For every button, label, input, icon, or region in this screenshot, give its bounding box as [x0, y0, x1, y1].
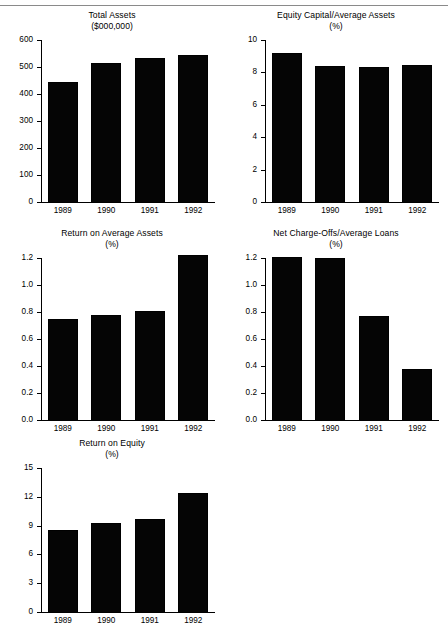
y-axis-tick [37, 526, 41, 527]
y-axis-tick [261, 420, 265, 421]
y-axis-label: 0 [224, 198, 257, 206]
y-axis-label: 0.8 [0, 308, 33, 316]
y-axis-label: 300 [0, 117, 33, 125]
y-axis-tick [261, 258, 265, 259]
plot-area: 036912151989199019911992 [0, 438, 224, 630]
bar-1991 [135, 519, 165, 613]
x-axis-label: 1989 [41, 424, 85, 433]
y-axis-label: 4 [224, 133, 257, 141]
x-axis-label: 1992 [172, 616, 216, 625]
y-axis-label: 0.6 [0, 335, 33, 343]
y-axis-tick [261, 137, 265, 138]
y-axis-label: 0 [0, 198, 33, 206]
y-axis-tick [261, 72, 265, 73]
y-axis-tick [37, 468, 41, 469]
y-axis-label: 0.4 [224, 362, 257, 370]
y-axis-line [265, 258, 266, 421]
y-axis-tick [37, 420, 41, 421]
bar-1992 [178, 55, 208, 203]
y-axis-label: 0.2 [0, 389, 33, 397]
y-axis-label: 1.2 [0, 254, 33, 262]
y-axis-label: 1.0 [224, 281, 257, 289]
x-axis-label: 1991 [352, 206, 396, 215]
bar-1989 [48, 530, 78, 613]
y-axis-tick [261, 285, 265, 286]
y-axis-tick [37, 285, 41, 286]
y-axis-label: 0.6 [224, 335, 257, 343]
y-axis-tick [37, 366, 41, 367]
y-axis-label: 6 [0, 550, 33, 558]
y-axis-tick [37, 175, 41, 176]
y-axis-tick [37, 554, 41, 555]
x-axis-label: 1992 [172, 424, 216, 433]
x-axis-label: 1991 [128, 206, 172, 215]
x-axis-label: 1990 [85, 424, 129, 433]
y-axis-label: 500 [0, 63, 33, 71]
x-axis-label: 1992 [172, 206, 216, 215]
y-axis-label: 6 [224, 101, 257, 109]
y-axis-tick [261, 202, 265, 203]
bar-1989 [48, 319, 78, 421]
y-axis-tick [37, 121, 41, 122]
plot-area: 0.00.20.40.60.81.01.21989199019911992 [224, 228, 448, 438]
y-axis-line [41, 40, 42, 203]
y-axis-tick [37, 258, 41, 259]
bar-1991 [359, 67, 389, 203]
y-axis-line [41, 468, 42, 613]
x-axis-label: 1990 [309, 206, 353, 215]
x-axis-label: 1990 [309, 424, 353, 433]
y-axis-label: 3 [0, 579, 33, 587]
y-axis-label: 200 [0, 144, 33, 152]
x-axis-label: 1989 [41, 616, 85, 625]
y-axis-tick [37, 339, 41, 340]
y-axis-tick [37, 393, 41, 394]
chart-panel-return-on-equity: Return on Equity(%)036912151989199019911… [0, 438, 224, 630]
x-axis-label: 1991 [352, 424, 396, 433]
x-axis-label: 1989 [265, 206, 309, 215]
y-axis-tick [37, 202, 41, 203]
y-axis-tick [261, 339, 265, 340]
y-axis-label: 400 [0, 90, 33, 98]
bar-1990 [315, 66, 345, 203]
bar-1992 [402, 65, 432, 203]
bar-1989 [272, 257, 302, 421]
y-axis-label: 0.0 [224, 416, 257, 424]
y-axis-label: 15 [0, 464, 33, 472]
x-axis-label: 1989 [265, 424, 309, 433]
y-axis-tick [37, 67, 41, 68]
plot-area: 01002003004005006001989199019911992 [0, 10, 224, 220]
y-axis-tick [37, 497, 41, 498]
y-axis-tick [37, 40, 41, 41]
y-axis-label: 0.0 [0, 416, 33, 424]
x-axis-label: 1991 [128, 424, 172, 433]
y-axis-tick [261, 40, 265, 41]
bar-1992 [178, 255, 208, 421]
y-axis-tick [37, 94, 41, 95]
y-axis-label: 0.2 [224, 389, 257, 397]
x-axis-label: 1992 [396, 424, 440, 433]
y-axis-label: 600 [0, 36, 33, 44]
y-axis-label: 12 [0, 493, 33, 501]
x-axis-label: 1989 [41, 206, 85, 215]
bar-1990 [91, 315, 121, 421]
x-axis-label: 1990 [85, 616, 129, 625]
y-axis-label: 0.4 [0, 362, 33, 370]
bar-1991 [135, 311, 165, 421]
y-axis-tick [261, 105, 265, 106]
chart-panel-net-charge-offs-average-loans: Net Charge-Offs/Average Loans(%)0.00.20.… [224, 228, 448, 438]
chart-panel-total-assets: Total Assets($000,000)010020030040050060… [0, 10, 224, 220]
bar-1990 [315, 258, 345, 421]
x-axis-label: 1990 [85, 206, 129, 215]
y-axis-tick [37, 148, 41, 149]
y-axis-label: 8 [224, 68, 257, 76]
bar-1989 [48, 82, 78, 203]
bar-1992 [178, 493, 208, 613]
plot-area: 0.00.20.40.60.81.01.21989199019911992 [0, 228, 224, 438]
y-axis-label: 0 [0, 608, 33, 616]
y-axis-tick [261, 170, 265, 171]
chart-panel-equity-capital-average-assets: Equity Capital/Average Assets(%)02468101… [224, 10, 448, 220]
bar-1989 [272, 53, 302, 203]
y-axis-label: 100 [0, 171, 33, 179]
x-axis-label: 1991 [128, 616, 172, 625]
y-axis-tick [261, 393, 265, 394]
